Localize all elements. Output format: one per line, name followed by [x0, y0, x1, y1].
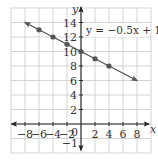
data-point — [36, 27, 41, 32]
line-chart: −8−6−4−2246824681012140−1xy y = −0.5x + … — [0, 0, 158, 160]
y-axis-label: y — [71, 3, 79, 16]
y-tick-label: 2 — [70, 104, 77, 117]
y-tick-label: 8 — [70, 60, 77, 73]
x-tick-label: 2 — [92, 128, 99, 141]
data-point — [92, 56, 97, 61]
data-point — [106, 63, 111, 68]
x-tick-label: 6 — [120, 128, 127, 141]
data-point — [78, 49, 83, 54]
equation-label: y = −0.5x + 10 — [84, 23, 158, 37]
data-point — [50, 34, 55, 39]
data-point — [64, 42, 69, 47]
equation-text: y = −0.5x + 10 — [85, 24, 158, 36]
y-tick-label: 4 — [70, 89, 77, 102]
y-tick-label: 6 — [70, 75, 77, 88]
y-tick-label: 12 — [63, 31, 77, 44]
y-tick-label-neg: −1 — [62, 137, 78, 150]
y-tick-label: 14 — [63, 17, 77, 30]
x-axis-label: x — [150, 123, 157, 136]
x-tick-label: 8 — [134, 128, 141, 141]
y-tick-label: 10 — [63, 46, 77, 59]
x-tick-label: 4 — [106, 128, 113, 141]
